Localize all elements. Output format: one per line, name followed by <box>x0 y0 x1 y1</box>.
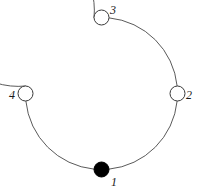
node-label-2: 2 <box>186 89 192 101</box>
node-label-1: 1 <box>111 176 117 188</box>
edge-node3-node4 <box>0 0 94 86</box>
edge-node2-node3 <box>109 18 177 86</box>
edge-node4-node1 <box>26 101 94 169</box>
cycle-graph-figure: 1 2 3 4 <box>0 0 204 194</box>
edge-group <box>0 0 177 169</box>
graph-node-2[interactable] <box>170 86 185 101</box>
node-group <box>18 10 185 177</box>
edge-node1-node2 <box>109 101 177 169</box>
graph-canvas <box>0 0 204 194</box>
graph-node-1[interactable] <box>94 162 109 177</box>
graph-node-4[interactable] <box>18 86 33 101</box>
graph-node-3[interactable] <box>94 10 109 25</box>
node-label-4: 4 <box>9 89 15 101</box>
node-label-3: 3 <box>110 4 116 16</box>
